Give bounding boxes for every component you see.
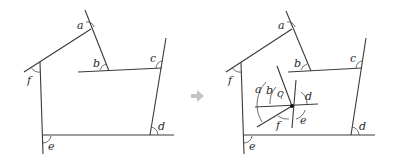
center-label-e: e	[300, 114, 307, 127]
label-a-right: a	[278, 19, 285, 32]
label-b: b	[93, 57, 100, 70]
exterior-angles-diagram: a b c d e f a b c d e f	[0, 0, 394, 168]
angle-arc-d-right	[352, 127, 359, 135]
center-label-b: b	[266, 84, 273, 97]
angle-arc-f-right	[232, 67, 242, 72]
angle-arc-b-right	[301, 64, 307, 70]
center-point	[290, 104, 294, 108]
edge-b-c	[78, 68, 162, 72]
angle-arc-a-right	[287, 22, 295, 27]
label-d: d	[158, 120, 165, 133]
angle-arc-b	[100, 64, 106, 70]
label-e: e	[48, 140, 55, 153]
center-line-cd	[292, 80, 296, 128]
right-polygon: a b c d e f	[226, 11, 375, 154]
edge-f-e	[40, 62, 43, 154]
center-label-a: a	[255, 83, 262, 96]
center-angle-assembly: a b c d e f	[255, 66, 318, 132]
label-e-right: e	[249, 140, 256, 153]
label-d-right: d	[359, 120, 366, 133]
center-label-f: f	[275, 119, 282, 132]
angle-arc-d	[151, 127, 158, 135]
label-a: a	[77, 19, 84, 32]
angle-arc-f	[31, 67, 41, 72]
angle-arc-a	[86, 22, 94, 27]
edge-f-a-right	[226, 29, 292, 72]
label-c-right: c	[350, 52, 356, 65]
left-polygon: a b c d e f	[24, 10, 174, 154]
arrow-icon	[191, 90, 204, 102]
center-line-fa	[257, 106, 292, 127]
label-f-right: f	[227, 74, 234, 87]
label-c: c	[150, 52, 156, 65]
label-b-right: b	[294, 57, 301, 70]
center-label-c: c	[277, 87, 283, 100]
label-f: f	[26, 74, 33, 87]
edge-f-a	[24, 29, 91, 72]
edge-f-e-right	[241, 62, 244, 154]
center-line-horizontal	[255, 104, 318, 107]
center-label-d: d	[305, 90, 312, 103]
